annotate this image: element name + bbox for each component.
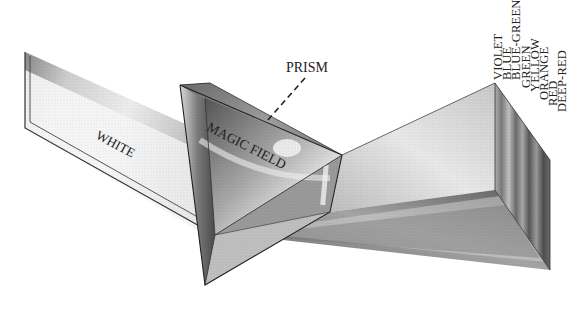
prism-callout: PRISM	[266, 60, 329, 122]
prism-label: PRISM	[286, 60, 329, 75]
prism-leader-line	[266, 78, 305, 122]
prism	[180, 83, 342, 285]
spectrum-label-deep-red: DEEP-RED	[555, 50, 569, 112]
prism-illustration: PRISM WHITE MAGIC FIELD VIOLET BLUE BLUE…	[0, 0, 573, 319]
